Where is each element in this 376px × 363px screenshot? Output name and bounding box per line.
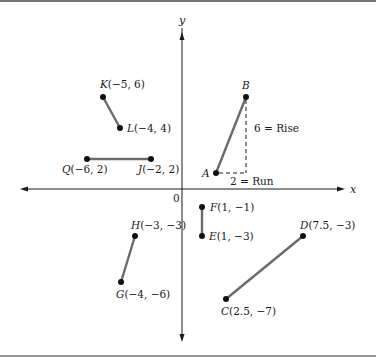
segment-CD [226, 236, 303, 299]
point-C [223, 296, 229, 302]
label-F: F(1, −1) [209, 201, 254, 213]
label-E: E(1, −3) [208, 230, 254, 242]
segment-AB [216, 97, 246, 173]
label-G: G(−4, −6) [116, 288, 170, 300]
segment-KL [103, 97, 120, 128]
point-L [117, 125, 123, 131]
label-L: L(−4, 4) [126, 122, 171, 134]
y-axis-label: y [178, 14, 186, 27]
slope-diagram: x y 0 6 = Rise 2 = Run [0, 0, 376, 363]
point-E [199, 233, 205, 239]
point-D [300, 233, 306, 239]
label-D: D(7.5, −3) [299, 219, 355, 231]
point-G [118, 279, 124, 285]
rise-label: 6 = Rise [254, 122, 299, 134]
label-B: B [241, 79, 250, 91]
label-J: J(−2, 2) [136, 163, 179, 175]
point-F [199, 204, 205, 210]
y-axis-down-arrow-icon [180, 334, 185, 342]
label-C: C(2.5, −7) [221, 305, 276, 317]
point-J [148, 156, 154, 162]
x-axis-right-arrow-icon [337, 187, 345, 192]
x-axis-label: x [350, 183, 357, 196]
point-Q [84, 156, 90, 162]
y-axis [180, 28, 185, 342]
point-K [100, 94, 106, 100]
label-Q: Q(−6, 2) [62, 163, 108, 176]
point-H [132, 233, 138, 239]
x-axis-left-arrow-icon [20, 187, 28, 192]
origin-label: 0 [173, 192, 180, 204]
segment-HG [121, 236, 135, 282]
label-K: K(−5, 6) [99, 78, 145, 90]
y-axis-up-arrow-icon [180, 32, 185, 40]
point-B [243, 94, 249, 100]
rise-run-guides [219, 100, 246, 173]
run-label: 2 = Run [230, 175, 274, 187]
label-H: H(−3, −3) [130, 219, 186, 231]
label-A: A [201, 167, 210, 179]
point-A [213, 170, 219, 176]
